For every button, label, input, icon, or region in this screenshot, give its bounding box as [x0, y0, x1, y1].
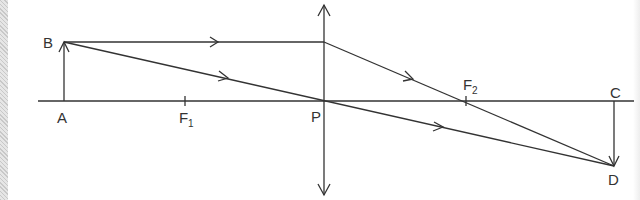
label-a: A [57, 109, 67, 126]
label-p: P [311, 108, 321, 125]
label-f1: F [179, 109, 188, 126]
label-f1-sub: 1 [188, 118, 194, 129]
ray-arrowhead-icon [218, 71, 228, 81]
label-f2: F [463, 76, 472, 93]
ray-refracted-through-f2 [324, 42, 614, 166]
label-b: B [43, 34, 53, 51]
label-d: D [608, 171, 619, 188]
label-c: C [610, 84, 621, 101]
ray-through-center [64, 42, 614, 166]
label-f2-sub: 2 [472, 85, 478, 96]
ray-diagram: B A F 1 P F 2 C D [0, 0, 640, 200]
